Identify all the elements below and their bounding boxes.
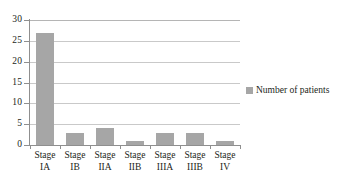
bar-slot [180, 20, 210, 145]
bar[interactable] [126, 141, 144, 145]
x-axis-label-line2: IIIA [150, 162, 180, 174]
y-axis-tick-label-wrap: 0 [0, 140, 22, 150]
x-axis-label-line2: IB [60, 162, 90, 174]
legend-label: Number of patients [256, 86, 329, 96]
y-axis-tick-label: 0 [0, 140, 22, 150]
x-axis-tick-mark [60, 145, 61, 149]
x-axis-label: StageIIB [120, 150, 150, 173]
bar-slot [150, 20, 180, 145]
x-axis-label: StageIV [210, 150, 240, 173]
x-axis-label-line2: IIIB [180, 162, 210, 174]
x-axis-tick-mark [180, 145, 181, 149]
y-axis-tick-label-wrap: 10 [0, 98, 22, 108]
y-axis-tick-label-wrap: 20 [0, 57, 22, 67]
bar[interactable] [36, 33, 54, 146]
x-axis-label-line1: Stage [30, 150, 60, 162]
bar[interactable] [156, 133, 174, 146]
bar[interactable] [96, 128, 114, 145]
x-axis-label: StageIB [60, 150, 90, 173]
x-axis-tick-mark [120, 145, 121, 149]
bar-slot [90, 20, 120, 145]
bar[interactable] [186, 133, 204, 146]
x-axis-label-line1: Stage [180, 150, 210, 162]
x-axis-label: StageIIIB [180, 150, 210, 173]
bar[interactable] [216, 141, 234, 145]
x-axis-label-line2: IV [210, 162, 240, 174]
y-axis-tick-label: 25 [0, 36, 22, 46]
x-axis-label-line1: Stage [60, 150, 90, 162]
y-axis-tick-label: 10 [0, 98, 22, 108]
y-axis-tick-label-wrap: 15 [0, 78, 22, 88]
bar-slot [210, 20, 240, 145]
legend: Number of patients [246, 86, 329, 96]
bar-slot [120, 20, 150, 145]
legend-swatch-icon [246, 87, 253, 94]
bar[interactable] [66, 133, 84, 146]
x-axis-labels: StageIAStageIBStageIIAStageIIBStageIIIAS… [30, 150, 240, 184]
x-axis-tick-mark [210, 145, 211, 149]
x-axis-label-line2: IIB [120, 162, 150, 174]
x-axis-label-line1: Stage [150, 150, 180, 162]
x-axis-label: StageIIA [90, 150, 120, 173]
x-axis-tick-mark [240, 145, 241, 149]
y-axis-tick-label: 15 [0, 78, 22, 88]
y-axis-tick-label-wrap: 25 [0, 36, 22, 46]
x-axis-tick-mark [150, 145, 151, 149]
x-axis-label-line2: IA [30, 162, 60, 174]
y-axis-tick-label: 5 [0, 119, 22, 129]
y-axis-tick-label-wrap: 30 [0, 15, 22, 25]
bar-slot [60, 20, 90, 145]
y-axis-tick-label-wrap: 5 [0, 119, 22, 129]
y-axis-tick-label: 30 [0, 15, 22, 25]
x-axis-label: StageIA [30, 150, 60, 173]
x-axis-label-line1: Stage [120, 150, 150, 162]
x-axis-label: StageIIIA [150, 150, 180, 173]
x-axis-label-line1: Stage [90, 150, 120, 162]
x-axis-label-line2: IIA [90, 162, 120, 174]
y-axis-tick-label: 20 [0, 57, 22, 67]
bar-slot [30, 20, 60, 145]
bars-layer [30, 20, 240, 145]
x-axis-tick-mark [90, 145, 91, 149]
x-axis-tick-mark [30, 145, 31, 149]
x-axis-label-line1: Stage [210, 150, 240, 162]
bar-chart: 051015202530 StageIAStageIBStageIIAStage… [0, 0, 348, 185]
